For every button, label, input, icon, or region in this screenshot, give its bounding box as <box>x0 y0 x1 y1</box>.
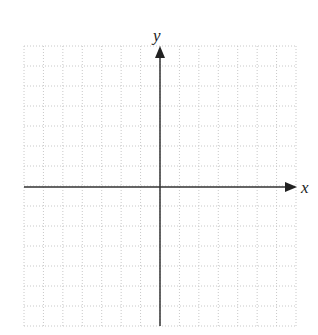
coordinate-plane: x y <box>0 0 318 335</box>
x-axis-arrow-icon <box>285 182 297 192</box>
x-axis-label: x <box>300 178 309 197</box>
y-axis-arrow-icon <box>155 46 165 58</box>
y-axis-label: y <box>151 26 161 45</box>
